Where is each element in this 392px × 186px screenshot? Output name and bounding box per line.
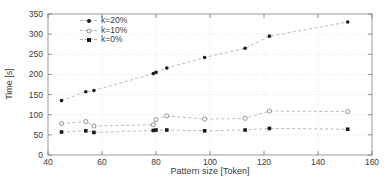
svg-text:160: 160 <box>365 157 379 167</box>
svg-text:50: 50 <box>34 130 44 140</box>
y-tick-labels: 050100150200250300350 <box>29 9 43 160</box>
svg-text:120: 120 <box>257 157 271 167</box>
chart-figure: 406080100120140160050100150200250300350 … <box>0 0 392 186</box>
svg-text:0: 0 <box>38 150 43 160</box>
y-axis-label: Time [s] <box>4 68 14 100</box>
legend-item-k0: k=0% <box>80 35 127 45</box>
svg-text:250: 250 <box>29 49 43 59</box>
series-k10 <box>59 109 349 128</box>
svg-text:80: 80 <box>151 157 161 167</box>
x-tick-labels: 406080100120140160 <box>43 157 379 167</box>
plot-canvas: 406080100120140160050100150200250300350 <box>0 0 392 186</box>
legend: k=20% k=10% k=0% <box>80 16 127 45</box>
svg-text:300: 300 <box>29 29 43 39</box>
legend-label: k=0% <box>101 35 123 45</box>
legend-sample-line <box>80 30 97 31</box>
open-circle-icon <box>86 28 91 33</box>
legend-sample-line <box>80 20 97 21</box>
x-axis-label: Pattern size [Token] <box>48 166 372 176</box>
filled-circle-icon <box>87 19 91 23</box>
svg-text:350: 350 <box>29 9 43 19</box>
svg-text:40: 40 <box>43 157 53 167</box>
svg-text:140: 140 <box>311 157 325 167</box>
svg-text:200: 200 <box>29 69 43 79</box>
series-k0 <box>60 127 350 135</box>
svg-text:150: 150 <box>29 90 43 100</box>
legend-sample-line <box>80 39 97 40</box>
svg-text:60: 60 <box>97 157 107 167</box>
filled-square-icon <box>87 38 91 42</box>
svg-text:100: 100 <box>29 110 43 120</box>
svg-text:100: 100 <box>203 157 217 167</box>
